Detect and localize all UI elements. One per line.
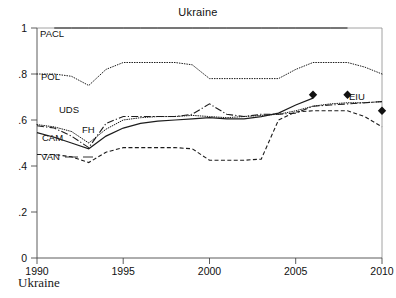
series-marker-eiu	[309, 91, 317, 99]
series-label-uds: UDS	[59, 104, 79, 115]
series-label-pol: POL	[41, 71, 60, 82]
y-tick-label-3: .6	[18, 114, 27, 126]
series-label-fh: FH	[82, 124, 95, 135]
series-line-van	[37, 111, 382, 163]
x-tick-label-3: 2005	[284, 265, 308, 277]
x-tick-label-1: 1995	[112, 265, 136, 277]
figure-caption: Ukraine	[18, 275, 60, 291]
y-tick-label-2: .4	[18, 160, 27, 172]
figure-container: Ukraine 0 .2 .4 .6 .8 1	[0, 0, 396, 298]
x-axis-ticks: 1990 1995 2000 2005 2010	[25, 258, 394, 277]
series-line-uds	[37, 102, 382, 143]
series-label-eiu: EIU	[349, 91, 365, 102]
series-label-pacl: PACL	[40, 28, 64, 39]
y-tick-label-0: 0	[21, 252, 27, 264]
series-line-pol	[37, 63, 382, 86]
series-marker-eiu	[378, 107, 386, 115]
y-tick-label-1: .2	[18, 206, 27, 218]
series-label-cam: CAM	[42, 132, 63, 143]
y-tick-label-5: 1	[21, 22, 27, 34]
series-label-van: VAN	[41, 151, 60, 162]
y-tick-label-4: .8	[18, 68, 27, 80]
series-group	[37, 28, 386, 163]
x-tick-label-2: 2000	[198, 265, 222, 277]
x-tick-label-4: 2010	[370, 265, 394, 277]
y-axis-ticks: 0 .2 .4 .6 .8 1	[18, 22, 37, 264]
chart-plot: 0 .2 .4 .6 .8 1 1990 1995 2000 2005 2010	[0, 0, 396, 298]
